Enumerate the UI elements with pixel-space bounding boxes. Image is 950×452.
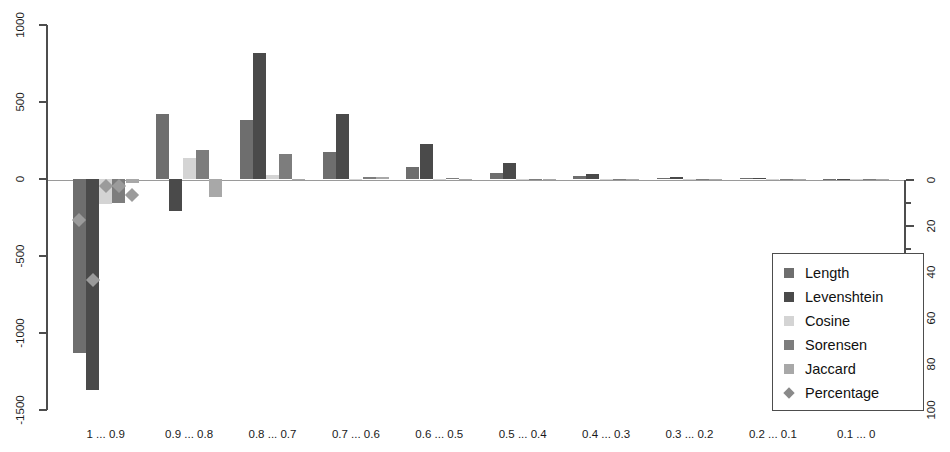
bar-sorensen-2 — [279, 154, 292, 179]
bar-cosine-7 — [683, 179, 696, 180]
bar-length-2 — [240, 120, 253, 179]
bar-length-7 — [657, 178, 670, 179]
right-axis-tick-label: 20 — [922, 207, 940, 245]
bar-levenshtein-1 — [169, 179, 182, 211]
bar-length-8 — [740, 178, 753, 179]
bar-jaccard-4 — [459, 179, 472, 180]
bar-jaccard-3 — [376, 177, 389, 179]
left-axis-tick-label: 500 — [11, 82, 29, 122]
bar-sorensen-8 — [780, 179, 793, 180]
legend-swatch-square-icon — [784, 364, 794, 374]
bar-jaccard-2 — [292, 179, 305, 180]
bar-jaccard-7 — [709, 179, 722, 180]
bar-jaccard-6 — [626, 179, 639, 180]
legend-item-levenshtein[interactable]: Levenshtein — [773, 285, 923, 309]
legend-swatch-square-icon — [784, 268, 794, 278]
right-axis-tick — [906, 179, 914, 181]
bar-cosine-2 — [266, 175, 279, 179]
legend-item-label: Levenshtein — [805, 290, 883, 305]
bar-jaccard-8 — [793, 179, 806, 180]
chart-legend: LengthLevenshteinCosineSorensenJaccardPe… — [772, 253, 924, 411]
bar-jaccard-9 — [876, 179, 889, 180]
legend-item-label: Length — [805, 266, 849, 281]
right-axis-tick-label: 40 — [922, 253, 940, 291]
bar-sorensen-3 — [363, 177, 376, 179]
legend-item-sorensen[interactable]: Sorensen — [773, 333, 923, 357]
right-axis-tick-label: 80 — [922, 345, 940, 383]
bar-levenshtein-4 — [420, 144, 433, 179]
legend-swatch-square-icon — [784, 340, 794, 350]
bar-sorensen-6 — [613, 179, 626, 180]
left-axis-tick — [39, 409, 47, 411]
legend-swatch-diamond-icon — [783, 387, 794, 398]
legend-item-cosine[interactable]: Cosine — [773, 309, 923, 333]
bar-sorensen-4 — [446, 178, 459, 179]
legend-item-label: Jaccard — [805, 362, 856, 377]
left-axis-tick-label: -1000 — [11, 313, 29, 353]
legend-item-jaccard[interactable]: Jaccard — [773, 357, 923, 381]
bar-levenshtein-5 — [503, 163, 516, 179]
left-axis-tick-label: 0 — [11, 159, 29, 199]
bar-cosine-9 — [850, 179, 863, 180]
bar-jaccard-1 — [209, 179, 222, 197]
left-axis-tick — [39, 178, 47, 180]
right-axis-minor-tick — [906, 202, 911, 204]
legend-item-percentage[interactable]: Percentage — [773, 381, 923, 405]
left-axis-tick — [39, 24, 47, 26]
bar-length-3 — [323, 152, 336, 179]
bar-jaccard-5 — [543, 179, 556, 180]
bar-cosine-1 — [183, 158, 196, 179]
left-axis-tick-label: 1000 — [11, 5, 29, 45]
bar-levenshtein-2 — [253, 53, 266, 179]
bar-sorensen-7 — [696, 179, 709, 180]
left-axis-tick — [39, 332, 47, 334]
left-axis-line — [46, 25, 48, 410]
x-axis-tick-label-9: 0.1 ... 0 — [803, 428, 910, 440]
bar-length-4 — [406, 167, 419, 179]
bar-levenshtein-6 — [586, 174, 599, 179]
bar-sorensen-1 — [196, 150, 209, 179]
right-axis-tick-label: 0 — [922, 161, 940, 199]
legend-swatch-square-icon — [784, 292, 794, 302]
bar-sorensen-5 — [529, 179, 542, 180]
bar-levenshtein-8 — [753, 178, 766, 179]
bar-jaccard-0 — [126, 179, 139, 183]
bar-length-1 — [156, 114, 169, 179]
left-axis-tick-label: -1500 — [11, 390, 29, 430]
right-axis-tick-label: 60 — [922, 299, 940, 337]
bar-levenshtein-9 — [837, 179, 850, 180]
left-axis-tick-label: -500 — [11, 236, 29, 276]
right-axis-tick — [906, 225, 914, 227]
right-axis-tick-label: 100 — [922, 391, 940, 429]
bar-length-6 — [573, 176, 586, 179]
legend-item-label: Sorensen — [805, 338, 867, 353]
legend-item-label: Cosine — [805, 314, 850, 329]
bar-cosine-6 — [600, 179, 613, 180]
percentage-marker-0-4 — [125, 188, 139, 202]
bar-length-0 — [73, 179, 86, 353]
bar-cosine-5 — [516, 179, 529, 180]
left-axis-tick — [39, 101, 47, 103]
right-axis-minor-tick — [906, 248, 911, 250]
bar-cosine-4 — [433, 179, 446, 180]
bar-levenshtein-3 — [336, 114, 349, 179]
chart-root: 10005000-500-1000-15000204060801001 ... … — [0, 0, 950, 452]
bar-cosine-8 — [766, 179, 779, 180]
bar-length-5 — [490, 173, 503, 179]
legend-item-length[interactable]: Length — [773, 261, 923, 285]
legend-item-label: Percentage — [805, 386, 879, 401]
bar-levenshtein-7 — [670, 177, 683, 179]
bar-sorensen-9 — [863, 179, 876, 180]
left-axis-tick — [39, 255, 47, 257]
bar-length-9 — [823, 179, 836, 180]
legend-swatch-square-icon — [784, 316, 794, 326]
bar-cosine-3 — [349, 179, 362, 180]
